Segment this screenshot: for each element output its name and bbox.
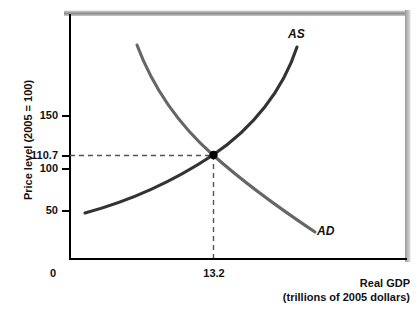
frame-bevel-top-highlight xyxy=(64,10,411,11)
y-tick-mark-100 xyxy=(62,168,70,170)
y-axis-line xyxy=(69,14,71,260)
chart-screenshot: 150 110.7 100 50 Price level (2005 = 100… xyxy=(0,0,417,315)
x-axis-title-main: Real GDP xyxy=(283,276,410,290)
x-axis-title-units: (trillions of 2005 dollars) xyxy=(283,290,410,304)
y-tick-mark-110-7 xyxy=(62,155,70,157)
x-axis-line xyxy=(69,258,407,260)
chart-frame xyxy=(64,10,411,262)
y-tick-mark-50 xyxy=(62,210,70,212)
origin-label: 0 xyxy=(50,267,56,279)
curve-label-as: AS xyxy=(288,27,305,41)
x-tick-label-13-2: 13.2 xyxy=(202,267,226,279)
y-tick-mark-150 xyxy=(62,115,70,117)
curve-label-ad: AD xyxy=(317,224,334,238)
x-axis-title: Real GDP (trillions of 2005 dollars) xyxy=(283,276,410,304)
y-axis-title: Price level (2005 = 100) xyxy=(22,50,34,230)
frame-bevel-right-highlight xyxy=(410,10,411,262)
